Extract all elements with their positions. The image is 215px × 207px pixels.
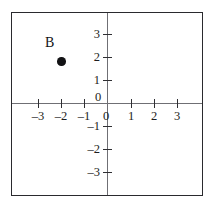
y-label-1: 1 [84,74,100,87]
origin-label-x-axis: 0 [103,110,109,123]
x-label-1: 1 [121,110,141,123]
x-tick-1 [131,99,132,108]
y-label-minus-3: –3 [84,166,100,179]
y-tick-2 [103,57,112,58]
x-tick-minus-2 [61,99,62,108]
y-label-2: 2 [84,51,100,64]
origin-label-y-axis: 0 [95,91,101,104]
plotted-point-b-label: B [45,36,54,50]
plotted-point-b [57,57,66,66]
x-tick-minus-3 [38,99,39,108]
y-tick-minus-2 [103,149,112,150]
x-tick-minus-1 [84,99,85,108]
x-tick-2 [154,99,155,108]
x-label-minus-2: –2 [51,110,71,123]
y-tick-3 [103,34,112,35]
x-tick-3 [177,99,178,108]
y-tick-1 [103,80,112,81]
coordinate-plane-figure: –3 –2 –1 1 2 3 3 2 1 –1 –2 –3 0 0 B [0,0,215,207]
x-label-minus-3: –3 [28,110,48,123]
y-label-minus-1: –1 [84,120,100,133]
x-label-2: 2 [144,110,164,123]
y-axis-line [107,13,108,195]
y-label-minus-2: –2 [84,143,100,156]
x-label-3: 3 [167,110,187,123]
y-tick-minus-1 [103,126,112,127]
y-tick-minus-3 [103,172,112,173]
y-label-3: 3 [84,28,100,41]
